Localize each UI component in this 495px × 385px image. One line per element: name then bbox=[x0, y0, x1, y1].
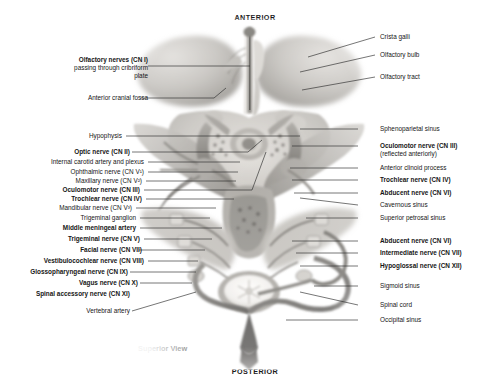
label-mandibular-nerve: Mandibular nerve (CN V³) bbox=[2, 204, 132, 212]
label-trigeminal-ganglion: Trigeminal ganglion bbox=[2, 214, 136, 222]
label-ophthalmic-nerve: Ophthalmic nerve (CN V¹) bbox=[2, 168, 144, 176]
label-occipital-sinus: Occipital sinus bbox=[380, 316, 421, 324]
label-oculomotor-nerve-left: Oculomotor nerve (CN III) bbox=[2, 186, 140, 194]
label-superior-petrosal-sinus: Superior petrosal sinus bbox=[380, 214, 445, 222]
label-abducent-nerve-upper: Abducent nerve (CN VI) bbox=[380, 189, 451, 197]
label-vagus-nerve: Vagus nerve (CN X) bbox=[2, 279, 138, 287]
label-optic-nerve: Optic nerve (CN II) bbox=[4, 148, 130, 156]
label-glossopharyngeal-nerve: Glossopharyngeal nerve (CN IX) bbox=[2, 268, 128, 276]
label-trochlear-nerve-right: Trochlear nerve (CN IV) bbox=[380, 176, 451, 184]
label-spinal-cord: Spinal cord bbox=[380, 301, 412, 309]
label-spinal-accessory-nerve: Spinal accessory nerve (CN XI) bbox=[2, 290, 130, 298]
anatomical-figure: ANTERIOR POSTERIOR Superior View bbox=[0, 0, 495, 385]
label-abducent-nerve-lower: Abducent nerve (CN VI) bbox=[380, 237, 451, 245]
label-crista-galli: Crista galli bbox=[380, 33, 410, 41]
label-internal-carotid-artery-and-plexus: Internal carotid artery and plexus bbox=[2, 158, 144, 166]
label-intermediate-nerve: Intermediate nerve (CN VII) bbox=[380, 249, 462, 257]
label-vestibulocochlear-nerve: Vestibulocochlear nerve (CN VIII) bbox=[2, 257, 144, 265]
label-olfactory-nerves: Olfactory nerves (CN I) passing through … bbox=[4, 56, 148, 81]
label-vertebral-artery: Vertebral artery bbox=[2, 307, 130, 315]
label-middle-meningeal-artery: Middle meningeal artery bbox=[2, 224, 136, 232]
label-hypoglossal-nerve: Hypoglossal nerve (CN XII) bbox=[380, 262, 462, 270]
label-hypophysis: Hypophysis bbox=[4, 132, 122, 140]
label-sphenoparietal-sinus: Sphenoparietal sinus bbox=[380, 125, 440, 133]
label-facial-nerve: Facial nerve (CN VII) bbox=[2, 246, 142, 254]
label-olfactory-tract: Olfactory tract bbox=[380, 73, 420, 81]
label-trigeminal-nerve: Trigeminal nerve (CN V) bbox=[2, 235, 140, 243]
label-oculomotor-nerve-right: Oculomotor nerve (CN III) (reflected ant… bbox=[380, 142, 457, 158]
label-anterior-clinoid-process: Anterior clinoid process bbox=[380, 164, 446, 172]
label-maxillary-nerve: Maxillary nerve (CN V²) bbox=[2, 177, 142, 185]
label-anterior-cranial-fossa: Anterior cranial fossa bbox=[4, 94, 148, 102]
label-olfactory-bulb: Olfactory bulb bbox=[380, 51, 419, 59]
label-trochlear-nerve-left: Trochlear nerve (CN IV) bbox=[2, 195, 142, 203]
label-cavernous-sinus: Cavernous sinus bbox=[380, 201, 428, 209]
skull-base-specimen-illustration bbox=[118, 18, 380, 370]
label-sigmoid-sinus: Sigmoid sinus bbox=[380, 282, 420, 290]
